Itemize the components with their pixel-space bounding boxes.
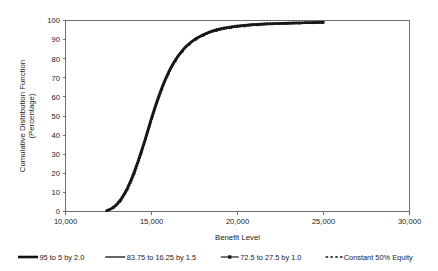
legend-item[interactable]: 95 to 5 by 2.0: [18, 253, 84, 262]
x-axis-ticks: 10,00015,00020,00025,00030,000: [54, 212, 421, 227]
legend-swatch-marker: [228, 255, 231, 258]
y-tick-label: 30: [52, 150, 60, 159]
y-tick-label: 40: [52, 131, 60, 140]
legend-item[interactable]: 83.75 to 16.25 by 1.5: [105, 253, 196, 262]
y-tick-label: 60: [52, 93, 60, 102]
y-tick-label: 50: [52, 112, 60, 121]
y-tick-label: 70: [52, 74, 60, 83]
series-line: [107, 22, 324, 210]
x-tick-label: 15,000: [140, 217, 163, 226]
y-tick-label: 20: [52, 169, 60, 178]
x-tick-label: 30,000: [398, 217, 421, 226]
cdf-line-chart: 0102030405060708090100 10,00015,00020,00…: [0, 0, 438, 271]
y-axis-title-line1: Cumulative Distribution Function: [18, 60, 27, 172]
series-marker: [243, 25, 245, 27]
series-line: [107, 23, 324, 211]
legend-label: 72.5 to 27.5 by 1.0: [240, 253, 301, 262]
y-axis-ticks: 0102030405060708090100: [47, 16, 65, 216]
series-marker: [257, 24, 259, 26]
y-tick-label: 90: [52, 35, 60, 44]
y-axis-title-line2: (Percentage): [27, 93, 36, 138]
legend-label: Constant 50% Equity: [344, 253, 413, 262]
series-line: [107, 22, 324, 211]
x-tick-label: 25,000: [312, 217, 335, 226]
legend-item[interactable]: 72.5 to 27.5 by 1.0: [221, 253, 302, 262]
x-tick-label: 20,000: [226, 217, 249, 226]
x-axis-title: Benefit Level: [215, 233, 260, 242]
plot-frame: [66, 21, 410, 212]
x-tick-label: 10,000: [54, 217, 77, 226]
legend-label: 83.75 to 16.25 by 1.5: [127, 253, 196, 262]
data-series-group: [106, 22, 324, 212]
legend-label: 95 to 5 by 2.0: [40, 253, 85, 262]
chart-figure: 0102030405060708090100 10,00015,00020,00…: [0, 0, 438, 271]
chart-legend: 95 to 5 by 2.083.75 to 16.25 by 1.572.5 …: [18, 253, 413, 262]
y-tick-label: 0: [56, 207, 60, 216]
y-tick-label: 80: [52, 55, 60, 64]
series-line: [107, 23, 324, 211]
legend-item[interactable]: Constant 50% Equity: [326, 253, 413, 262]
series-marker: [230, 27, 232, 29]
y-tick-label: 100: [47, 16, 60, 25]
series-marker: [202, 35, 204, 37]
y-tick-label: 10: [52, 188, 60, 197]
